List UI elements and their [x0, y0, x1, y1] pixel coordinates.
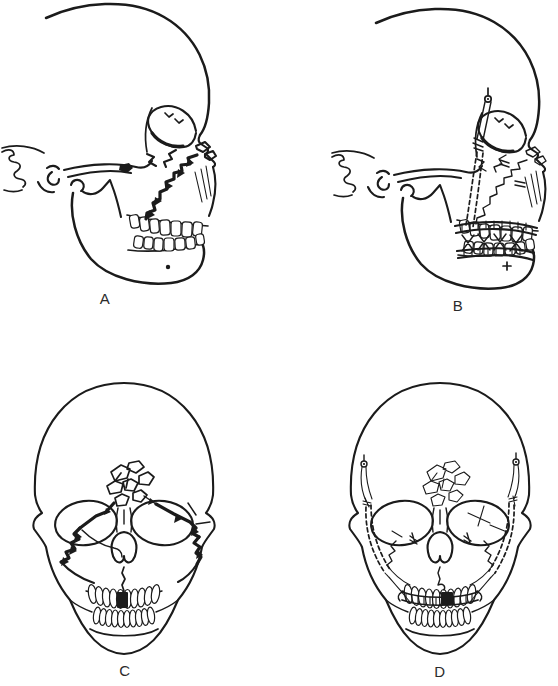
fixation-pin-center [487, 98, 489, 100]
panel-d-frontal-skull-fixation [349, 383, 530, 654]
figure-canvas: A B C D [0, 0, 558, 686]
missing-tooth-gap [117, 592, 128, 608]
glabella-fragments [423, 461, 470, 506]
skull-fracture-fixation-figure [0, 0, 558, 686]
panel-c-frontal-skull-fracture [33, 383, 214, 654]
frontal-skull-base [349, 383, 530, 654]
infraorbital-wire-twists [410, 533, 471, 544]
pin-center-left [363, 463, 365, 465]
panel-label-c: C [103, 662, 147, 679]
wire-loops [361, 465, 519, 501]
panel-b-lateral-skull-fixation [332, 9, 546, 289]
missing-tooth-gap [441, 592, 453, 605]
mandible-dot [166, 265, 170, 269]
mandible-cross-mark [503, 262, 511, 270]
suspension-wire-dashed [466, 152, 483, 227]
glabella-fragments [107, 461, 154, 506]
lateral-skull-base [2, 4, 215, 284]
suspension-apparatus [466, 88, 525, 227]
pin-center-right [515, 461, 517, 463]
frontal-skull-base [33, 383, 214, 654]
panel-label-b: B [436, 297, 480, 314]
fixation-pins [364, 453, 516, 461]
panel-label-a: A [83, 290, 127, 307]
panel-label-d: D [418, 663, 462, 680]
panel-a-lateral-skull-fracture [2, 4, 216, 284]
